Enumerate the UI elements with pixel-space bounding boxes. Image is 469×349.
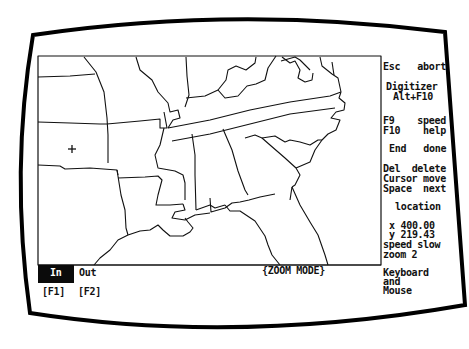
input-mode-line3: Mouse (383, 286, 412, 296)
zoom-in-label[interactable]: In (50, 268, 61, 278)
zoom-out-button[interactable]: Out (79, 268, 96, 278)
esc-action: abort (417, 61, 446, 72)
zoom-level: zoom 2 (383, 250, 417, 260)
end-done-hint: End done (389, 144, 446, 154)
location-title: location (395, 202, 441, 212)
end-key: End (389, 143, 406, 154)
space-key: Space (383, 183, 412, 194)
mode-indicator: {ZOOM MODE} (262, 266, 325, 276)
esc-key: Esc (383, 61, 400, 72)
space-next-hint: Space next (383, 184, 446, 194)
f10-help-hint: F10 help (383, 126, 446, 136)
zoom-in-key: [F1] (42, 287, 65, 297)
space-action: next (423, 183, 446, 194)
f10-action: help (423, 125, 446, 136)
zoom-out-key: [F2] (78, 287, 101, 297)
f10-key: F10 (383, 125, 400, 136)
end-action: done (423, 143, 446, 154)
esc-abort-hint: Esc abort (383, 62, 446, 72)
digitizer-shortcut: Alt+F10 (393, 92, 433, 102)
